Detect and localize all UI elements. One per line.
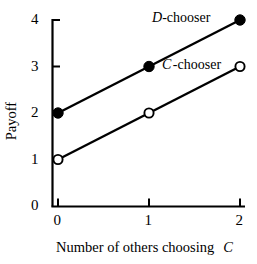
series-label-c-rest: -chooser [173,57,221,72]
y-tick-label-1: 1 [31,152,39,167]
data-point-d-2 [235,15,245,25]
y-axis-title: Payoff [0,86,22,156]
y-tick-label-0: 0 [31,198,39,213]
x-tick-label-2: 2 [236,213,244,228]
payoff-line-chart: 4 3 2 1 0 0 1 2 Payoff Number of others … [0,0,257,264]
series-label-d-symbol: D [152,10,162,25]
x-axis-title: Number of others choosingC [56,240,233,255]
data-point-d-0 [53,108,63,118]
series-label-d-rest: -chooser [162,10,210,25]
data-point-c-0 [53,155,62,164]
y-tick-label-4: 4 [31,12,39,27]
series-label-c-chooser: C-chooser [162,58,221,72]
series-label-c-symbol: C [162,57,171,72]
data-point-c-1 [144,108,153,117]
x-axis-title-symbol: C [223,239,233,255]
x-tick-label-0: 0 [54,213,62,228]
chart-plot-area [0,0,257,264]
y-axis-title-text: Payoff [4,102,19,140]
y-tick-label-3: 3 [31,59,39,74]
data-point-c-2 [235,62,244,71]
y-tick-label-2: 2 [31,105,39,120]
x-tick-label-1: 1 [145,213,153,228]
x-axis-title-words: Number of others choosing [56,239,214,255]
data-point-d-1 [144,61,154,71]
series-label-d-chooser: D-chooser [152,11,210,25]
